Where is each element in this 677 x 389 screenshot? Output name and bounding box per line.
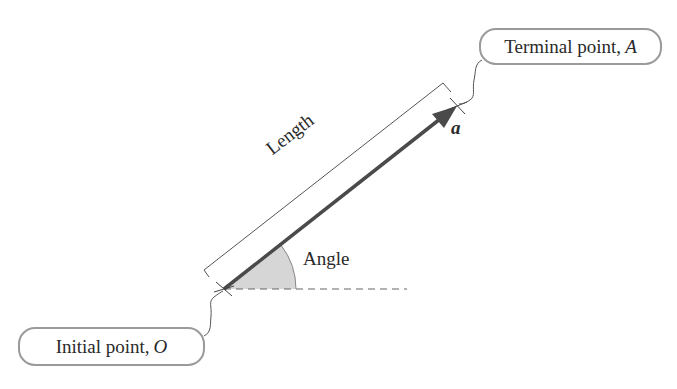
angle-label: Angle <box>303 248 349 270</box>
vector-label: a <box>451 117 461 139</box>
terminal-point-label: Terminal point, A <box>479 28 662 65</box>
initial-point-text: Initial point, <box>56 336 150 358</box>
initial-leader-line <box>204 291 223 336</box>
initial-point-symbol: O <box>154 336 168 358</box>
terminal-point-symbol: A <box>625 36 637 58</box>
initial-point-label: Initial point, O <box>18 327 205 366</box>
terminal-point-text: Terminal point, <box>504 36 621 58</box>
terminal-leader-line <box>459 60 482 104</box>
